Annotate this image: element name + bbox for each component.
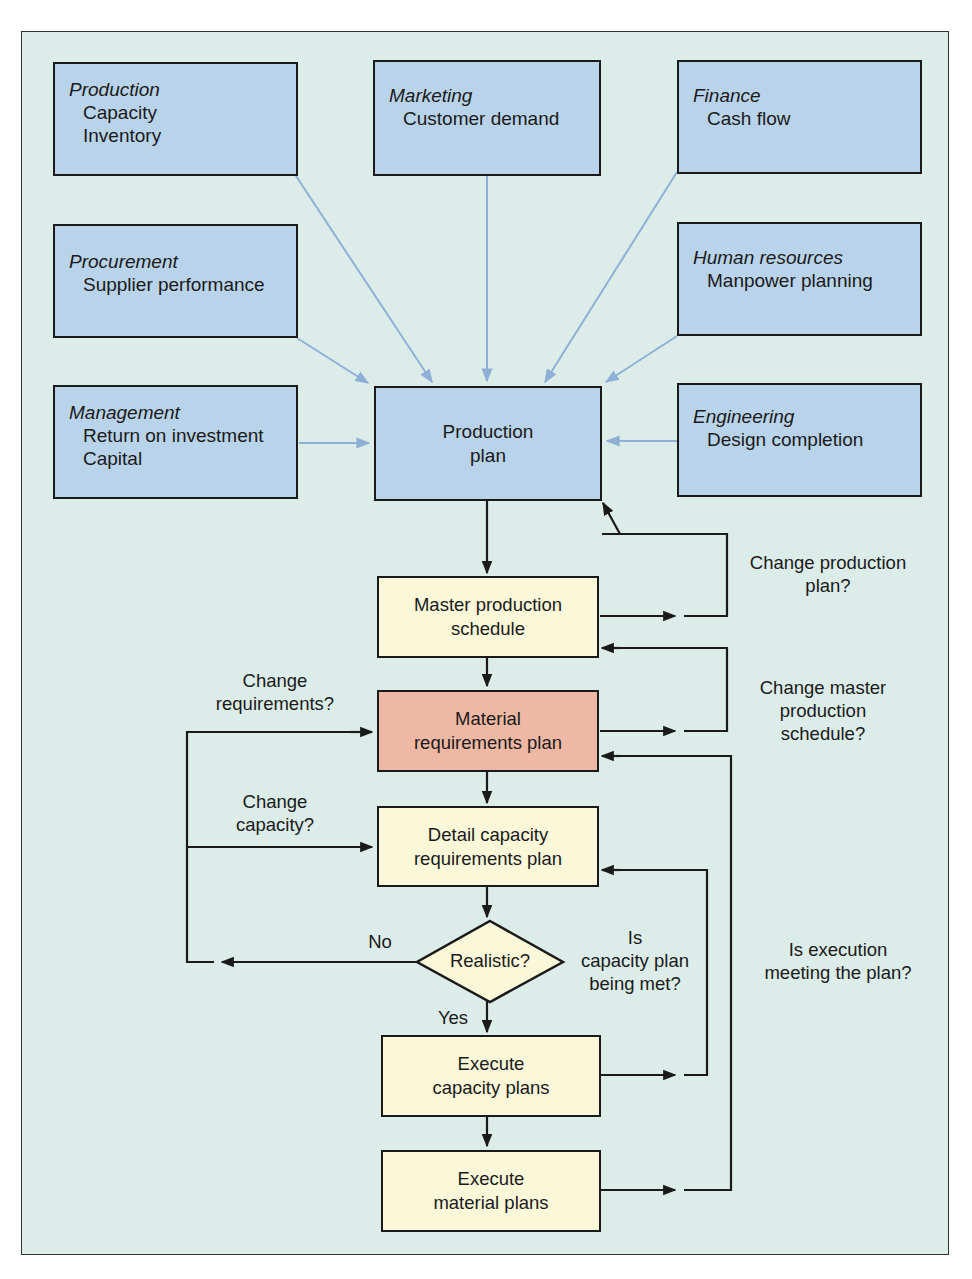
change-capacity-label: Change capacity? [215, 790, 335, 836]
box-line: requirements plan [414, 731, 562, 755]
dept-title: Marketing [389, 84, 599, 107]
change-mps-label: Change master production schedule? [738, 676, 908, 745]
dept-title: Production [69, 78, 296, 101]
decision-label: Realistic? [430, 950, 550, 972]
dept-management-box: Management Return on investment Capital [53, 385, 298, 499]
label-line: requirements? [205, 692, 345, 715]
label-line: Is [565, 926, 705, 949]
label-line: Is execution [748, 938, 928, 961]
box-line: schedule [451, 617, 525, 641]
box-line: requirements plan [414, 847, 562, 871]
label-line: meeting the plan? [748, 961, 928, 984]
capacity-plan-met-label: Is capacity plan being met? [565, 926, 705, 995]
dept-title: Finance [693, 84, 920, 107]
box-line: Detail capacity [428, 823, 548, 847]
dept-item: Supplier performance [69, 273, 296, 296]
change-requirements-label: Change requirements? [205, 669, 345, 715]
dept-title: Procurement [69, 250, 296, 273]
box-line: Execute [458, 1052, 525, 1076]
label-line: Change [205, 669, 345, 692]
dept-item: Cash flow [693, 107, 920, 130]
box-line: Production [443, 420, 534, 444]
label-line: being met? [565, 972, 705, 995]
box-line: Master production [414, 593, 562, 617]
decision-yes-label: Yes [428, 1006, 478, 1029]
execute-material-plans-box: Execute material plans [381, 1150, 601, 1232]
execute-capacity-plans-box: Execute capacity plans [381, 1035, 601, 1117]
dept-item: Capacity [69, 101, 296, 124]
label-line: capacity plan [565, 949, 705, 972]
dept-title: Human resources [693, 246, 920, 269]
label-line: Change [215, 790, 335, 813]
box-line: material plans [433, 1191, 548, 1215]
label-line: capacity? [215, 813, 335, 836]
master-production-schedule-box: Master production schedule [377, 576, 599, 658]
dept-finance-box: Finance Cash flow [677, 60, 922, 174]
execution-meeting-label: Is execution meeting the plan? [748, 938, 928, 984]
label-line: production [738, 699, 908, 722]
label-line: plan? [738, 574, 918, 597]
dept-title: Engineering [693, 405, 920, 428]
dept-marketing-box: Marketing Customer demand [373, 60, 601, 176]
label-line: Change production [738, 551, 918, 574]
dept-item: Inventory [69, 124, 296, 147]
material-requirements-plan-box: Material requirements plan [377, 690, 599, 772]
production-plan-box: Production plan [374, 386, 602, 501]
dept-item: Manpower planning [693, 269, 920, 292]
label-line: Change master [738, 676, 908, 699]
box-line: Execute [458, 1167, 525, 1191]
dept-item: Customer demand [389, 107, 599, 130]
dept-item: Return on investment [69, 424, 296, 447]
dept-human-resources-box: Human resources Manpower planning [677, 222, 922, 336]
dept-production-box: Production Capacity Inventory [53, 62, 298, 176]
dept-item: Design completion [693, 428, 920, 451]
box-line: Material [455, 707, 521, 731]
dept-item: Capital [69, 447, 296, 470]
decision-no-label: No [355, 930, 405, 953]
dept-engineering-box: Engineering Design completion [677, 383, 922, 497]
box-line: capacity plans [432, 1076, 549, 1100]
change-production-plan-label: Change production plan? [738, 551, 918, 597]
box-line: plan [470, 444, 506, 468]
detail-capacity-requirements-plan-box: Detail capacity requirements plan [377, 806, 599, 887]
dept-title: Management [69, 401, 296, 424]
dept-procurement-box: Procurement Supplier performance [53, 224, 298, 338]
label-line: schedule? [738, 722, 908, 745]
